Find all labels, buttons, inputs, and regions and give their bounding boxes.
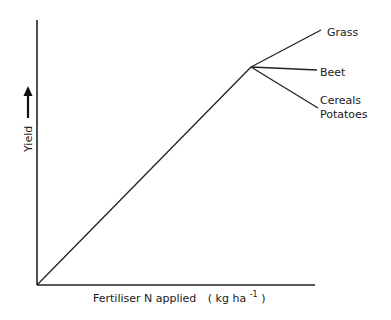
x-axis-units-close: ) — [261, 292, 265, 305]
grass-label: Grass — [327, 26, 359, 39]
yield-response-diagram: Grass Beet Cereals Potatoes Yield Fertil… — [0, 0, 391, 320]
common-response-line — [37, 67, 251, 285]
x-axis-label: Fertiliser N applied ( kg ha -1 ) — [93, 287, 265, 305]
beet-line — [251, 67, 317, 70]
beet-label: Beet — [320, 66, 346, 79]
cereals-potatoes-line — [251, 67, 318, 108]
y-axis-label: Yield — [22, 126, 35, 153]
x-axis-units-sup: -1 — [250, 290, 258, 299]
x-axis-label-text: Fertiliser N applied — [93, 292, 196, 305]
potatoes-label: Potatoes — [320, 108, 368, 121]
y-axis-label-group: Yield — [22, 86, 35, 153]
up-arrow-icon — [24, 86, 33, 96]
grass-line — [251, 30, 321, 67]
cereals-label: Cereals — [320, 94, 361, 107]
x-axis-units: ( kg ha — [208, 292, 246, 305]
